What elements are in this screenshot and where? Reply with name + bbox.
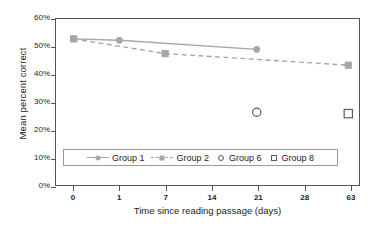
x-tick-label: 0 [71,193,75,202]
x-tick-label: 21 [254,193,263,202]
legend-marker-open-square-icon [269,153,279,163]
legend-item-group-1[interactable]: Group 1 [87,153,145,163]
legend-marker-open-circle-icon [216,153,226,163]
x-tick-mark [166,185,167,191]
y-axis-title: Mean percent correct [17,14,28,174]
series-group-8 [344,109,352,117]
series-group-6 [253,108,261,116]
y-tick-mark [51,103,56,104]
legend-marker-filled-square-icon [151,153,173,163]
y-tick-mark [51,159,56,160]
data-point-filled-square [71,36,77,42]
x-tick-mark [212,185,213,191]
x-axis-title: Time since reading passage (days) [55,205,360,216]
chart-figure: Mean percent correct 0%10%20%30%40%50%60… [0,0,378,227]
y-tick-label: 50% [34,41,50,50]
chart-legend: Group 1Group 2Group 6Group 8 [63,149,338,166]
legend-symbol [218,155,224,161]
data-point-filled-circle [116,37,122,43]
legend-symbol [160,155,165,160]
y-tick-label: 20% [34,125,50,134]
x-tick-mark [305,185,306,191]
x-tick-label: 63 [347,193,356,202]
x-tick-label: 14 [208,193,217,202]
x-tick-mark [258,185,259,191]
legend-symbol [95,155,100,160]
data-point-filled-circle [254,46,260,52]
y-tick-mark [51,131,56,132]
legend-symbol [271,155,277,161]
legend-label: Group 2 [176,153,209,163]
data-point-open-circle [253,108,261,116]
legend-label: Group 8 [282,153,315,163]
y-tick-mark [51,19,56,20]
legend-marker-filled-circle-icon [87,153,109,163]
data-point-open-square [344,109,352,117]
legend-label: Group 6 [229,153,262,163]
x-tick-mark [119,185,120,191]
y-tick-label: 10% [34,153,50,162]
series-line [74,39,349,65]
y-tick-mark [51,75,56,76]
x-tick-label: 7 [163,193,167,202]
y-tick-label: 60% [34,13,50,22]
y-tick-mark [51,47,56,48]
y-tick-label: 0% [38,181,50,190]
data-point-filled-square [162,51,168,57]
y-tick-label: 40% [34,69,50,78]
legend-item-group-2[interactable]: Group 2 [151,153,209,163]
data-point-filled-square [345,62,351,68]
series-line [74,39,257,50]
x-tick-mark [73,185,74,191]
legend-item-group-8[interactable]: Group 8 [269,153,315,163]
x-tick-mark [351,185,352,191]
y-tick-mark [51,187,56,188]
x-tick-label: 1 [117,193,121,202]
x-tick-label: 28 [300,193,309,202]
y-tick-label: 30% [34,97,50,106]
series-group-1 [71,36,260,53]
legend-item-group-6[interactable]: Group 6 [216,153,262,163]
legend-label: Group 1 [112,153,145,163]
